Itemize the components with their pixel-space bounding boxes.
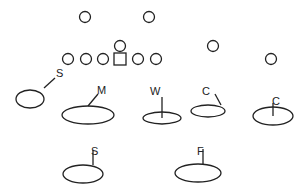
defender-label: C <box>202 85 210 97</box>
defender-zone: M <box>62 84 114 124</box>
offense-player-lineman <box>133 54 144 65</box>
defense-group: SMWCCSF <box>16 67 293 183</box>
offense-player-receiver <box>266 54 277 65</box>
zone-pointer-line <box>215 94 221 105</box>
defender-zone: W <box>143 85 181 124</box>
defender-zone: C <box>253 95 293 125</box>
defender-zone: F <box>175 145 221 182</box>
defender-label: W <box>150 85 161 97</box>
offense-group <box>63 12 277 66</box>
formation-diagram: SMWCCSF <box>0 0 304 196</box>
defender-label: S <box>56 67 63 79</box>
offense-player-back <box>208 41 219 52</box>
zone-ellipse <box>62 106 114 124</box>
offense-player-receiver <box>80 12 91 23</box>
offense-player-lineman <box>98 54 109 65</box>
offense-player-lineman <box>63 54 74 65</box>
zone-ellipse <box>175 164 221 182</box>
offense-player-lineman <box>151 54 162 65</box>
zone-ellipse <box>63 165 103 183</box>
defender-label: S <box>91 145 98 157</box>
offense-player-quarterback <box>115 41 126 52</box>
zone-ellipse <box>16 90 44 108</box>
zone-ellipse <box>191 105 225 117</box>
defender-label: C <box>272 95 280 107</box>
defender-zone: C <box>191 85 225 117</box>
defender-label: M <box>97 84 106 96</box>
defender-zone: S <box>16 67 63 108</box>
defender-label: F <box>197 145 204 157</box>
zone-pointer-line <box>44 78 55 88</box>
defender-zone: S <box>63 145 103 183</box>
offense-player-lineman <box>81 54 92 65</box>
offense-player-center <box>114 53 126 65</box>
offense-player-receiver <box>144 12 155 23</box>
